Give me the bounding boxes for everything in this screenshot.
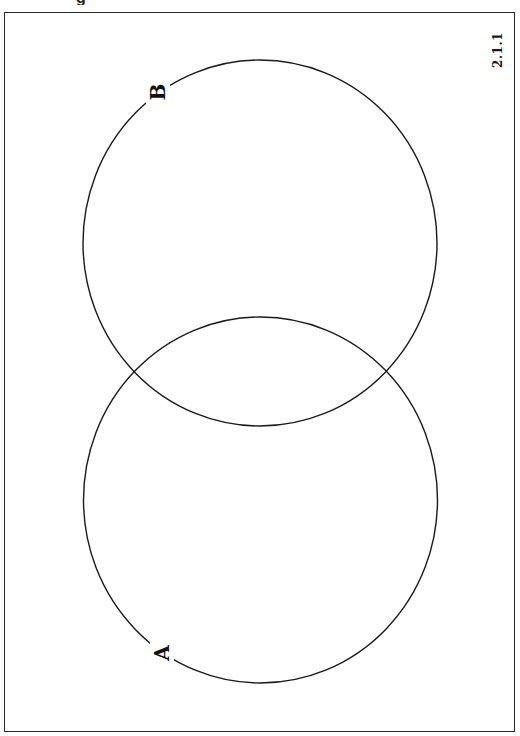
- circle-a: [84, 317, 438, 683]
- figure-number-text: 2.1.1: [491, 32, 505, 68]
- set-b-label: B: [143, 77, 173, 107]
- figure-number: 2.1.1: [478, 30, 518, 70]
- circle-b: [83, 60, 437, 426]
- venn-diagram: [0, 0, 520, 736]
- set-b-label-text: B: [148, 84, 168, 101]
- set-a-label: A: [147, 638, 177, 668]
- set-a-label-text: A: [152, 645, 172, 661]
